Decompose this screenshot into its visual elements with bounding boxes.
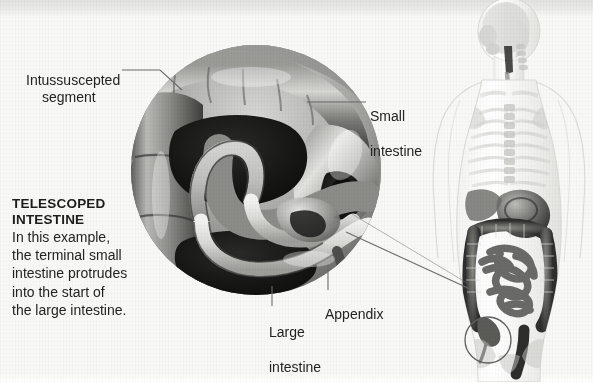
body-figure-svg [420, 0, 593, 382]
caption-body: In this example, the terminal small inte… [12, 228, 164, 319]
label-small-intestine-line2: intestine [370, 143, 422, 159]
caption-body-line4: into the start of [12, 283, 164, 301]
label-large-intestine-line2: intestine [269, 359, 321, 375]
illustration-page: Intussuscepted segment Small intestine L… [0, 0, 593, 382]
label-appendix-text: Appendix [325, 306, 383, 322]
caption-title-line1: TELESCOPED [12, 196, 164, 212]
label-intussuscepted-line1: Intussuscepted [26, 72, 120, 88]
caption-block: TELESCOPED INTESTINE In this example, th… [12, 196, 164, 319]
spine [504, 104, 515, 183]
inset-clip [131, 45, 381, 295]
caption-body-line1: In this example, [12, 228, 164, 246]
caption-body-line3: intestine protrudes [12, 264, 164, 282]
label-intussuscepted-segment: Intussuscepted segment [26, 54, 158, 124]
caption-body-line2: the terminal small [12, 246, 164, 264]
caption-title-line2: INTESTINE [12, 212, 164, 228]
label-small-intestine-line1: Small [370, 108, 405, 124]
transparent-human-torso [420, 0, 593, 382]
label-intussuscepted-line2: segment [26, 89, 158, 107]
label-appendix: Appendix [325, 288, 405, 323]
caption-title: TELESCOPED INTESTINE [12, 196, 164, 227]
intussusception-cross-section-svg [131, 45, 381, 295]
label-large-intestine-line1: Large [269, 324, 305, 340]
label-small-intestine: Small intestine [370, 90, 460, 160]
caption-body-line5: the large intestine. [12, 301, 164, 319]
magnified-cross-section [131, 45, 381, 295]
